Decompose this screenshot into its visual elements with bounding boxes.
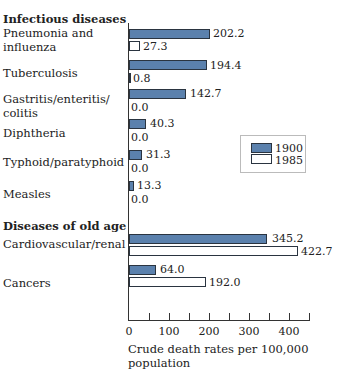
bar-1900-cancers [129, 265, 156, 275]
group-title-old-age: Diseases of old age [3, 219, 126, 233]
value-label: 0.8 [133, 73, 151, 85]
bar-1900-tuberculosis [129, 60, 207, 70]
x-tick [289, 313, 290, 320]
category-label: Cardiovascular/renal [3, 237, 125, 251]
bar-1985-cardiovascular [129, 246, 298, 256]
x-tick [309, 313, 310, 320]
category-label: Measles [3, 187, 51, 201]
category-label: Cancers [3, 276, 51, 290]
category-label: Tuberculosis [3, 66, 78, 80]
x-tick-label: 300 [239, 325, 260, 338]
x-axis-label: Crude death rates per 100,000 population [128, 342, 338, 370]
legend-label-1900: 1900 [275, 143, 303, 154]
bar-1900-typhoid [129, 150, 142, 160]
category-label: influenza [3, 40, 56, 54]
x-tick [209, 313, 210, 320]
group-title-infectious: Infectious diseases [3, 12, 126, 26]
x-axis [128, 320, 310, 321]
value-label: 31.3 [146, 149, 171, 161]
value-label: 0.0 [131, 132, 149, 144]
value-label: 0.0 [131, 194, 149, 206]
bar-1900-measles [129, 181, 134, 191]
value-label: 194.4 [210, 60, 242, 72]
x-tick [149, 313, 150, 320]
legend-swatch-1900 [251, 143, 272, 153]
value-label: 27.3 [143, 41, 168, 53]
x-tick-label: 400 [279, 325, 300, 338]
x-tick-label: 100 [159, 325, 180, 338]
category-label: Diphtheria [3, 126, 66, 140]
x-tick [169, 313, 170, 320]
value-label: 192.0 [209, 277, 241, 289]
bar-1900-cardiovascular [129, 234, 267, 244]
value-label: 142.7 [190, 88, 222, 100]
value-label: 0.0 [131, 163, 149, 175]
x-tick-label: 0 [126, 325, 133, 338]
value-label: 13.3 [137, 180, 162, 192]
legend-label-1985: 1985 [275, 155, 303, 166]
value-label: 202.2 [213, 28, 245, 40]
x-tick [269, 313, 270, 320]
value-label: 40.3 [150, 118, 175, 130]
value-label: 0.0 [131, 102, 149, 114]
bar-1985-cancers [129, 277, 206, 287]
legend: 1900 1985 [240, 135, 306, 173]
value-label: 422.7 [301, 246, 333, 258]
bar-1985-pneumonia [129, 41, 140, 51]
category-label: Pneumonia and [3, 26, 93, 40]
x-tick [249, 313, 250, 320]
bar-1900-diphtheria [129, 119, 146, 129]
value-label: 345.2 [272, 233, 304, 245]
legend-swatch-1985 [251, 154, 272, 164]
category-label: Typhoid/paratyphoid [3, 155, 124, 169]
category-label: colitis [3, 106, 38, 120]
category-label: Gastritis/enteritis/ [3, 92, 110, 106]
bar-1900-pneumonia [129, 29, 210, 39]
bar-1985-tuberculosis [129, 73, 131, 83]
x-tick [229, 313, 230, 320]
value-label: 64.0 [160, 264, 185, 276]
bar-1900-gastritis [129, 89, 186, 99]
x-tick-label: 200 [199, 325, 220, 338]
x-tick [189, 313, 190, 320]
